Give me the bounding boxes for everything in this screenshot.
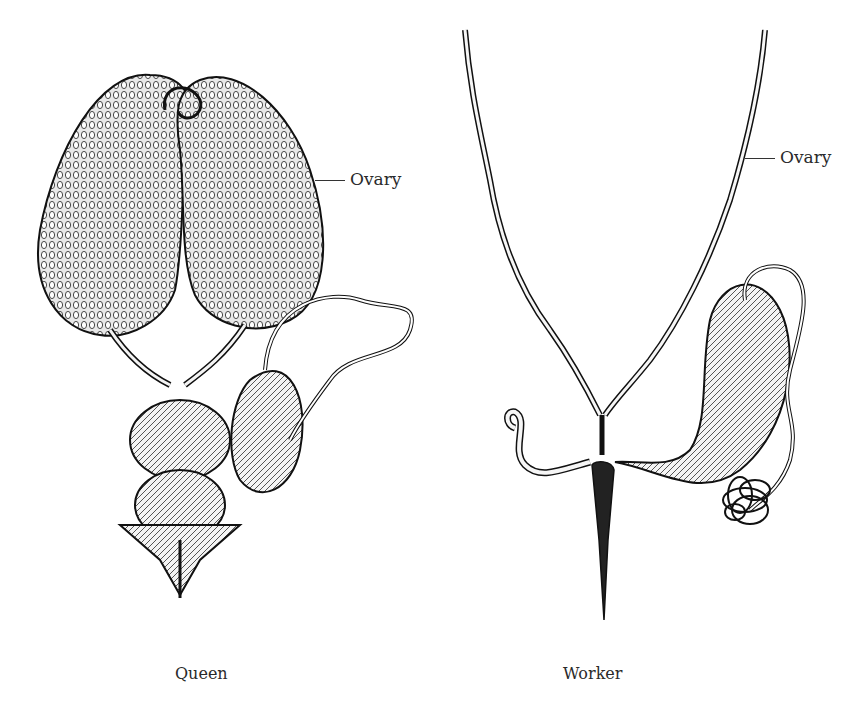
- worker-diagram: [465, 30, 804, 620]
- queen-right-ovary: [177, 77, 323, 328]
- queen-ovary-label: Ovary: [350, 169, 401, 189]
- queen-left-ovary: [38, 75, 191, 336]
- queen-ovary-leader-line: [315, 180, 345, 181]
- queen-diagram: [38, 75, 412, 598]
- illustration-canvas: [0, 0, 860, 711]
- queen-caption: Queen: [175, 664, 228, 683]
- worker-ovary-leader-line: [745, 158, 775, 159]
- worker-caption: Worker: [563, 664, 622, 683]
- worker-ovary-label: Ovary: [780, 147, 831, 167]
